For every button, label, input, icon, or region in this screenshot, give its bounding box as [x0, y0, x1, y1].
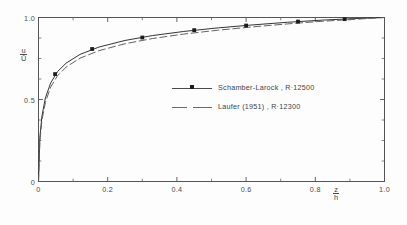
y-tick-label: 0.5: [14, 95, 35, 104]
x-tick-label: 0.6: [241, 185, 252, 194]
x-tick-label: 0.8: [310, 185, 321, 194]
x-axis-title-numerator: z: [333, 186, 339, 193]
series-markers: [53, 17, 346, 76]
data-point-marker: [53, 72, 57, 76]
chart-figure: 00.20.40.60.81.0 00.51.0 u Ū z h Schambe…: [0, 0, 407, 225]
legend-item-schamber-larock: Schamber-Larock , R·12500: [172, 78, 315, 97]
y-axis-title-numerator: u: [20, 47, 27, 54]
chart-legend: Schamber-Larock , R·12500 Laufer (1951) …: [172, 78, 315, 116]
data-point-marker: [192, 28, 196, 32]
legend-swatch-dashed: [172, 102, 212, 112]
y-tick-label: 0: [14, 177, 35, 186]
legend-swatch-solid-marker: [172, 83, 212, 93]
x-axis-title-denominator: h: [333, 193, 339, 201]
data-point-marker: [343, 17, 347, 21]
data-point-marker: [296, 20, 300, 24]
y-axis-title-denominator: Ū: [20, 54, 27, 62]
data-point-marker: [90, 47, 94, 51]
x-tick-label: 0.4: [171, 185, 182, 194]
legend-item-laufer: Laufer (1951) , R·12300: [172, 97, 315, 116]
x-axis-title: z h: [333, 186, 339, 202]
x-tick-label: 0.2: [102, 185, 113, 194]
legend-label-schamber-larock: Schamber-Larock , R·12500: [218, 83, 315, 92]
y-tick-label: 1.0: [14, 13, 35, 22]
legend-label-laufer: Laufer (1951) , R·12300: [218, 102, 300, 111]
data-point-marker: [244, 24, 248, 28]
x-tick-label: 0: [36, 185, 40, 194]
y-axis-title: u Ū: [20, 47, 27, 63]
legend-square-marker-icon: [190, 85, 194, 89]
x-tick-label: 1.0: [379, 185, 390, 194]
data-point-marker: [140, 36, 144, 40]
